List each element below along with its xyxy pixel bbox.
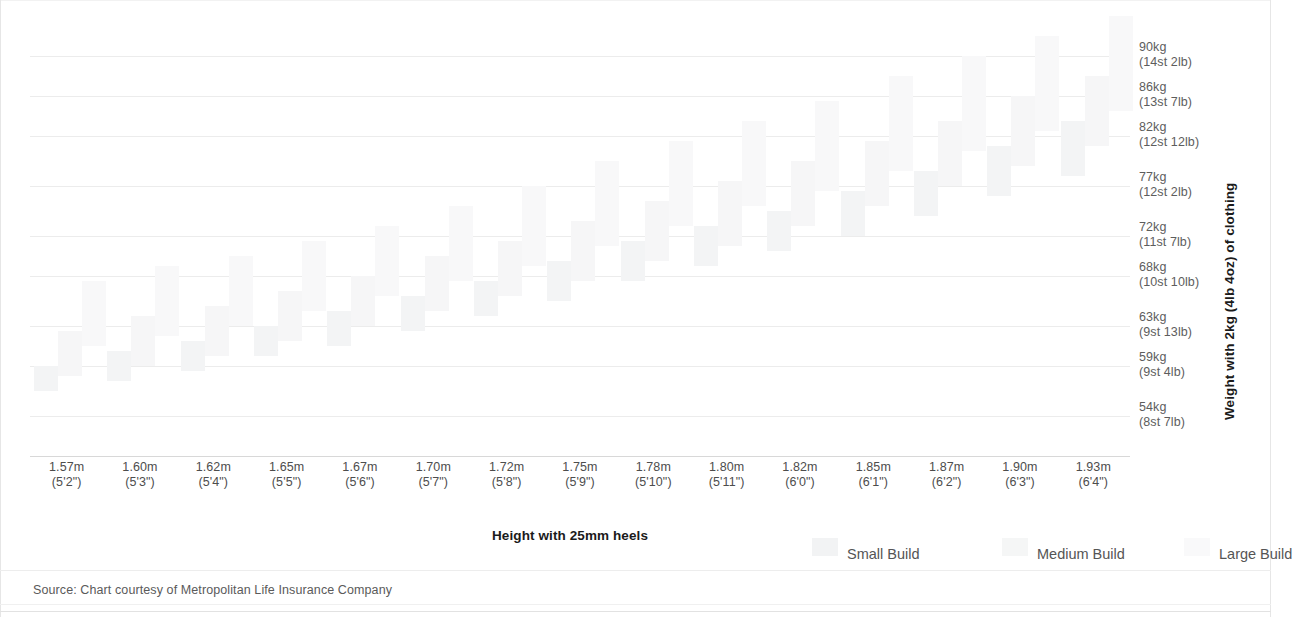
bar-medium	[498, 241, 522, 296]
frame-bottom-border	[0, 611, 1271, 612]
bar-large	[1035, 36, 1059, 131]
bar-medium	[278, 291, 302, 341]
x-tick-label: 1.93m(6'4")	[1057, 460, 1130, 489]
bar-medium	[131, 316, 155, 366]
legend-swatch-medium-icon	[1002, 538, 1028, 556]
bar-small	[914, 171, 938, 216]
bar-small	[547, 261, 571, 301]
x-tick-label: 1.70m(5'7")	[397, 460, 470, 489]
y-tick-imperial: (14st 2lb)	[1139, 55, 1229, 70]
bar-medium	[351, 276, 375, 326]
x-tick-imperial: (6'3")	[983, 475, 1056, 490]
y-tick-kg: 72kg	[1139, 220, 1229, 235]
x-tick-imperial: (5'2")	[30, 475, 103, 490]
x-tick-metric: 1.60m	[122, 460, 157, 474]
source-note: Source: Chart courtesy of Metropolitan L…	[33, 583, 392, 597]
bar-small	[401, 296, 425, 331]
bar-large	[82, 281, 106, 346]
bar-large	[449, 206, 473, 281]
bar-small	[474, 281, 498, 316]
x-tick-imperial: (6'1")	[837, 475, 910, 490]
y-tick-kg: 68kg	[1139, 260, 1229, 275]
x-tick-imperial: (5'5")	[250, 475, 323, 490]
bar-small	[181, 341, 205, 371]
x-tick-metric: 1.75m	[562, 460, 597, 474]
bar-small	[1061, 121, 1085, 176]
x-tick-metric: 1.82m	[782, 460, 817, 474]
y-tick-imperial: (12st 2lb)	[1139, 185, 1229, 200]
legend-label: Small Build	[847, 546, 920, 562]
x-tick-imperial: (5'11")	[690, 475, 763, 490]
y-tick-imperial: (9st 13lb)	[1139, 325, 1229, 340]
x-tick-imperial: (5'10")	[617, 475, 690, 490]
bar-large	[1109, 16, 1133, 111]
x-tick-label: 1.57m(5'2")	[30, 460, 103, 489]
legend-item-medium[interactable]: Medium Build	[1002, 538, 1125, 556]
x-tick-metric: 1.93m	[1076, 460, 1111, 474]
x-tick-metric: 1.85m	[856, 460, 891, 474]
y-tick-kg: 86kg	[1139, 80, 1229, 95]
y-tick-label: 68kg(10st 10lb)	[1139, 260, 1229, 289]
legend-swatch-small-icon	[812, 538, 838, 556]
y-tick-kg: 82kg	[1139, 120, 1229, 135]
bar-small	[327, 311, 351, 346]
gridline	[30, 186, 1130, 187]
x-tick-label: 1.75m(5'9")	[543, 460, 616, 489]
x-axis-title: Height with 25mm heels	[0, 528, 1140, 543]
x-tick-label: 1.62m(5'4")	[177, 460, 250, 489]
bar-medium	[791, 161, 815, 226]
x-tick-imperial: (5'7")	[397, 475, 470, 490]
legend-item-large[interactable]: Large Build	[1184, 538, 1292, 556]
frame-left-border	[0, 0, 1, 617]
legend-label: Large Build	[1219, 546, 1292, 562]
bar-large	[962, 56, 986, 151]
x-tick-label: 1.90m(6'3")	[983, 460, 1056, 489]
x-tick-label: 1.85m(6'1")	[837, 460, 910, 489]
bar-small	[987, 146, 1011, 196]
bar-medium	[938, 121, 962, 186]
bar-large	[155, 266, 179, 336]
x-tick-imperial: (5'3")	[103, 475, 176, 490]
x-tick-label: 1.78m(5'10")	[617, 460, 690, 489]
x-tick-metric: 1.87m	[929, 460, 964, 474]
x-tick-label: 1.65m(5'5")	[250, 460, 323, 489]
y-axis-title: Weight with 2kg (4lb 4oz) of clothing	[1222, 0, 1237, 120]
x-tick-metric: 1.78m	[636, 460, 671, 474]
legend-swatch-large-icon	[1184, 538, 1210, 556]
bar-small	[694, 226, 718, 266]
bar-large	[375, 226, 399, 296]
y-axis-tick-labels: 90kg(14st 2lb)86kg(13st 7lb)82kg(12st 12…	[1139, 0, 1229, 520]
x-tick-label: 1.67m(5'6")	[323, 460, 396, 489]
y-tick-imperial: (8st 7lb)	[1139, 415, 1229, 430]
y-tick-kg: 77kg	[1139, 170, 1229, 185]
y-tick-kg: 59kg	[1139, 350, 1229, 365]
y-axis-title-text: Weight with 2kg (4lb 4oz) of clothing	[1222, 120, 1237, 420]
bar-medium	[425, 256, 449, 311]
bar-large	[302, 241, 326, 311]
x-tick-metric: 1.67m	[342, 460, 377, 474]
gridline	[30, 416, 1130, 417]
y-tick-label: 59kg(9st 4lb)	[1139, 350, 1229, 379]
bar-medium	[58, 331, 82, 376]
bar-large	[229, 256, 253, 326]
x-tick-metric: 1.80m	[709, 460, 744, 474]
x-tick-imperial: (5'4")	[177, 475, 250, 490]
x-axis-tick-labels: 1.57m(5'2")1.60m(5'3")1.62m(5'4")1.65m(5…	[30, 460, 1140, 500]
y-tick-kg: 54kg	[1139, 400, 1229, 415]
gridline	[30, 326, 1130, 327]
legend-item-small[interactable]: Small Build	[812, 538, 920, 556]
x-tick-metric: 1.72m	[489, 460, 524, 474]
bar-medium	[1011, 96, 1035, 166]
bar-large	[815, 101, 839, 191]
x-tick-label: 1.72m(5'8")	[470, 460, 543, 489]
y-tick-imperial: (9st 4lb)	[1139, 365, 1229, 380]
frame-right-border	[1270, 0, 1271, 617]
bar-medium	[1085, 76, 1109, 146]
y-tick-label: 77kg(12st 2lb)	[1139, 170, 1229, 199]
bar-large	[742, 121, 766, 206]
bar-small	[841, 191, 865, 236]
y-tick-label: 54kg(8st 7lb)	[1139, 400, 1229, 429]
y-tick-imperial: (11st 7lb)	[1139, 235, 1229, 250]
bar-small	[621, 241, 645, 281]
y-tick-imperial: (12st 12lb)	[1139, 135, 1229, 150]
